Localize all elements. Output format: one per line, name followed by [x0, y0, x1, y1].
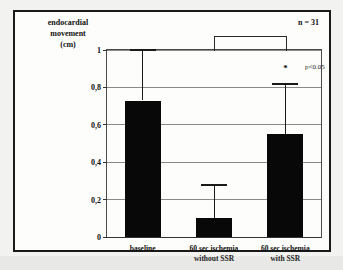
y-axis-title-line-2: movement	[23, 28, 113, 39]
y-axis-tick-label: 0	[97, 233, 101, 242]
category-label-line: 60 sec ischemia	[250, 244, 321, 254]
significance-star: *	[283, 64, 288, 73]
gridline	[107, 87, 321, 88]
y-axis-tick-label: 0,4	[91, 158, 101, 167]
category-label-line: 60 sec ischemia	[178, 244, 249, 254]
y-axis-tick-label: 0,8	[91, 83, 101, 92]
y-axis-tick	[103, 199, 107, 200]
error-bar-stem	[214, 185, 215, 219]
scan-artifact	[0, 256, 343, 270]
y-axis-title-line-1: endocardial	[23, 17, 113, 28]
bar	[267, 134, 303, 237]
y-axis-tick	[103, 162, 107, 163]
error-bar-cap	[130, 49, 156, 51]
error-bar-stem	[142, 50, 143, 100]
y-axis-tick	[103, 87, 107, 88]
y-axis-tick	[103, 50, 107, 51]
y-axis-tick-label: 1	[97, 46, 101, 55]
sample-size-annotation: n = 31	[298, 18, 319, 27]
y-axis-tick	[103, 237, 107, 238]
category-label-line: baseline	[107, 244, 178, 254]
bar	[125, 101, 161, 238]
figure-container: endocardial movement (cm) n = 31 p<0.05 …	[0, 0, 343, 270]
error-bar-stem	[285, 84, 286, 134]
error-bar-cap	[201, 184, 227, 186]
x-axis-category-label: baseline	[107, 244, 178, 254]
y-axis-tick	[103, 124, 107, 125]
error-bar-cap	[272, 83, 298, 85]
bar	[196, 218, 232, 237]
figure-outer-frame: endocardial movement (cm) n = 31 p<0.05 …	[13, 10, 331, 252]
y-axis-tick-label: 0,2	[91, 195, 101, 204]
y-axis-tick-label: 0,6	[91, 120, 101, 129]
plot-area: 00,20,40,60,81baseline60 sec ischemiawit…	[106, 49, 322, 238]
significance-bracket	[214, 36, 287, 51]
